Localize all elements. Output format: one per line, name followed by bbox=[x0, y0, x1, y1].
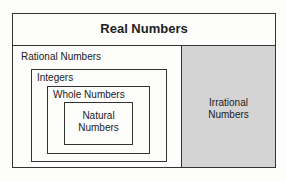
natural-numbers-label: Natural Numbers bbox=[64, 110, 133, 134]
irrational-text: Irrational Numbers bbox=[199, 97, 259, 121]
irrational-numbers-label: Irrational Numbers bbox=[181, 97, 276, 121]
integers-label: Integers bbox=[37, 72, 73, 83]
real-numbers-title: Real Numbers bbox=[12, 21, 276, 36]
rational-numbers-label: Rational Numbers bbox=[21, 51, 101, 62]
whole-numbers-label: Whole Numbers bbox=[53, 89, 125, 100]
natural-text: Natural Numbers bbox=[74, 110, 124, 134]
